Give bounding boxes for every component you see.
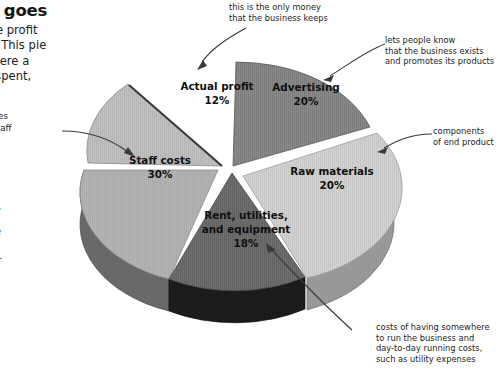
callout-line: day-to-day running costs, <box>376 343 490 354</box>
leader-actual-profit <box>202 28 246 62</box>
slice-value-advertising: 20% <box>294 95 319 107</box>
callout-actual-profit: this is the only money that the business… <box>229 2 328 23</box>
callout-line: and promotes its products <box>385 56 494 67</box>
leader-advertising <box>330 44 385 76</box>
slice-value-staff-costs: 30% <box>148 168 173 180</box>
callout-line: components <box>433 126 494 137</box>
slice-label-rent-utilities: Rent, utilities, <box>204 209 288 221</box>
slice-label-advertising: Advertising <box>272 81 340 93</box>
callout-advertising: lets people know that the business exist… <box>385 35 494 67</box>
slice-label-raw-materials: Raw materials <box>290 165 374 177</box>
callout-line: costs of having somewhere <box>376 322 490 333</box>
callout-rent-utilities: costs of having somewhere to run the bus… <box>376 322 490 364</box>
slice-value-actual-profit: 12% <box>205 94 230 106</box>
callout-line: such as utility expenses <box>376 354 490 365</box>
callout-line: that the business exists <box>385 46 494 57</box>
callout-line: that the business keeps <box>229 13 328 24</box>
slice-value-rent-utilities: 18% <box>234 237 259 249</box>
callout-line: this is the only money <box>229 2 328 13</box>
callout-raw-materials: components of end product <box>433 126 494 147</box>
slice-label-rent-utilities-2: and equipment <box>202 223 291 235</box>
callout-line: lets people know <box>385 35 494 46</box>
slice-label-actual-profit: Actual profit <box>180 80 253 92</box>
slice-value-raw-materials: 20% <box>320 179 345 191</box>
callout-line: to run the business and <box>376 333 490 344</box>
callout-line: of end product <box>433 137 494 148</box>
page-root: oney goes not pure profit s costs. This … <box>0 0 504 371</box>
slice-label-staff-costs: Staff costs <box>129 154 191 166</box>
leader-raw-materials <box>384 134 432 148</box>
